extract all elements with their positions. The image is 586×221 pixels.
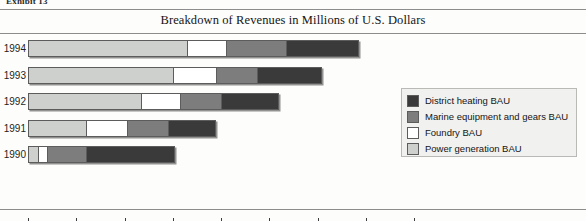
bar-segment[interactable]: [47, 146, 86, 163]
bar-segment[interactable]: [127, 120, 168, 137]
bar-segment[interactable]: [86, 120, 127, 137]
legend-swatch-icon: [407, 143, 419, 155]
bar-segment[interactable]: [86, 146, 175, 163]
y-axis-label: 1993: [2, 70, 26, 81]
legend: District heating BAUMarine equipment and…: [401, 88, 577, 157]
y-axis-label: 1992: [2, 96, 26, 107]
bar-segment[interactable]: [28, 93, 141, 110]
divider-under-title: [0, 33, 586, 34]
bar-segment[interactable]: [141, 93, 180, 110]
divider-bottom: [0, 209, 586, 210]
stacked-bar[interactable]: [28, 120, 216, 137]
chart-page: Exhibit 13 Breakdown of Revenues in Mill…: [0, 0, 586, 221]
x-axis-tick: [76, 218, 77, 221]
bar-segment[interactable]: [180, 93, 221, 110]
bar-segment[interactable]: [187, 40, 226, 57]
bar-segment[interactable]: [226, 40, 286, 57]
legend-item[interactable]: District heating BAU: [407, 93, 571, 108]
legend-item-label: District heating BAU: [425, 95, 510, 107]
legend-item-label: Foundry BAU: [425, 127, 482, 139]
bar-segment[interactable]: [28, 120, 86, 137]
stacked-bar[interactable]: [28, 67, 322, 84]
legend-item[interactable]: Power generation BAU: [407, 141, 571, 156]
divider-top: [0, 9, 586, 10]
legend-item[interactable]: Foundry BAU: [407, 125, 571, 140]
x-axis-tick: [221, 218, 222, 221]
bar-segment[interactable]: [28, 67, 173, 84]
bar-segment[interactable]: [216, 67, 257, 84]
bar-segment[interactable]: [38, 146, 48, 163]
x-axis-tick: [366, 218, 367, 221]
legend-item[interactable]: Marine equipment and gears BAU: [407, 109, 571, 124]
x-axis-tick: [173, 218, 174, 221]
x-axis-tick: [414, 218, 415, 221]
x-axis-tick: [269, 218, 270, 221]
legend-item-label: Marine equipment and gears BAU: [425, 111, 568, 123]
bar-segment[interactable]: [286, 40, 358, 57]
stacked-bar[interactable]: [28, 40, 359, 57]
legend-item-label: Power generation BAU: [425, 143, 522, 155]
bar-segment[interactable]: [257, 67, 322, 84]
x-axis-tick: [125, 218, 126, 221]
x-axis-tick: [28, 218, 29, 221]
chart-title: Breakdown of Revenues in Millions of U.S…: [0, 13, 586, 28]
bar-segment[interactable]: [168, 120, 216, 137]
x-axis-tick: [318, 218, 319, 221]
exhibit-caption: Exhibit 13: [6, 0, 48, 5]
bar-segment[interactable]: [221, 93, 279, 110]
legend-swatch-icon: [407, 95, 419, 107]
bar-segment[interactable]: [28, 40, 187, 57]
bar-segment[interactable]: [28, 146, 38, 163]
y-axis-label: 1990: [2, 149, 26, 160]
bar-segment[interactable]: [173, 67, 216, 84]
stacked-bar[interactable]: [28, 93, 279, 110]
stacked-bar[interactable]: [28, 146, 175, 163]
y-axis-label: 1991: [2, 123, 26, 134]
legend-swatch-icon: [407, 111, 419, 123]
legend-swatch-icon: [407, 127, 419, 139]
bar-row: 1993: [0, 67, 586, 87]
y-axis-label: 1994: [2, 43, 26, 54]
bar-row: 1994: [0, 40, 586, 60]
